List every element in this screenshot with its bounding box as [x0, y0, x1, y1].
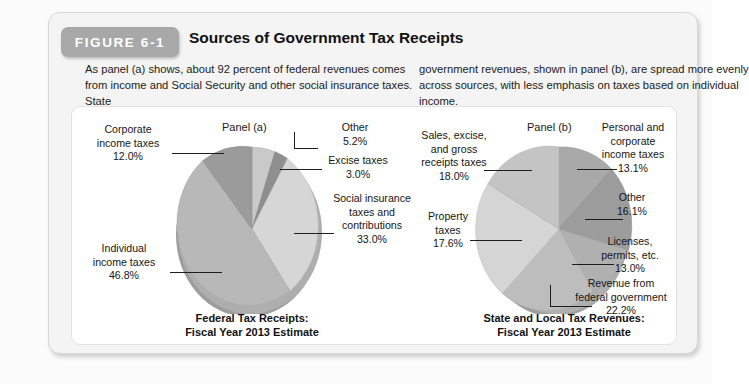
figure-card: FIGURE 6-1 Sources of Government Tax Rec…	[48, 12, 698, 354]
leader-individual	[170, 272, 222, 273]
label-individual-income-taxes: Individual income taxes 46.8%	[76, 242, 172, 283]
label-licenses-l1: Licenses,	[584, 235, 676, 249]
label-licenses-permits: Licenses, permits, etc. 13.0%	[584, 235, 676, 276]
label-excise-pct: 3.0%	[312, 168, 404, 182]
leader-corporate	[172, 153, 224, 154]
label-corporate-income-taxes: Corporate income taxes 12.0%	[82, 123, 174, 164]
label-excise-l1: Excise taxes	[312, 154, 404, 168]
caption-b-line1: State and Local Tax Revenues:	[450, 311, 678, 325]
leader-other-v	[294, 132, 295, 149]
label-individual-pct: 46.8%	[76, 269, 172, 283]
figure-title: Sources of Government Tax Receipts	[189, 29, 464, 47]
label-sales-l3: receipts taxes	[402, 156, 506, 170]
label-property-taxes: Property taxes 17.6%	[404, 210, 492, 251]
label-federal-l1: Revenue from	[562, 277, 680, 291]
label-corporate-pct: 12.0%	[82, 150, 174, 164]
leader-licenses	[572, 264, 614, 265]
label-other-state-pct: 16.1%	[592, 205, 672, 219]
leader-excise	[280, 169, 322, 170]
label-other-federal: Other 5.2%	[317, 121, 393, 148]
label-other-state: Other 16.1%	[592, 191, 672, 218]
label-corporate-l1: Corporate	[82, 123, 174, 137]
label-other-pct: 5.2%	[317, 135, 393, 149]
label-sales-excise-gross: Sales, excise, and gross receipts taxes …	[402, 129, 506, 183]
label-personal-l1: Personal and	[584, 121, 682, 135]
label-corporate-l2: income taxes	[82, 137, 174, 151]
leader-federal-h	[550, 306, 592, 307]
label-other-state-l1: Other	[592, 191, 672, 205]
label-licenses-l2: permits, etc.	[584, 249, 676, 263]
leader-other-state	[585, 219, 623, 220]
leader-personal	[577, 169, 617, 170]
label-sales-l1: Sales, excise,	[402, 129, 506, 143]
caption-panel-a: Federal Tax Receipts: Fiscal Year 2013 E…	[142, 311, 362, 340]
leader-property	[470, 240, 522, 241]
caption-a-line1: Federal Tax Receipts:	[142, 311, 362, 325]
caption-a-line2: Fiscal Year 2013 Estimate	[142, 325, 362, 339]
charts-panel: Panel (a)	[71, 106, 677, 345]
figure-number-text: FIGURE 6-1	[75, 35, 165, 50]
caption-panel-b: State and Local Tax Revenues: Fiscal Yea…	[450, 311, 678, 340]
label-individual-l2: income taxes	[76, 256, 172, 270]
caption-b-line2: Fiscal Year 2013 Estimate	[450, 325, 678, 339]
leader-other-h	[294, 148, 318, 149]
label-sales-l2: and gross	[402, 143, 506, 157]
leader-federal-v	[550, 285, 551, 307]
leader-sales	[484, 170, 532, 171]
label-other-l1: Other	[317, 121, 393, 135]
leader-social	[294, 233, 334, 234]
label-personal-corporate-income: Personal and corporate income taxes 13.1…	[584, 121, 682, 175]
label-federal-l2: federal government	[562, 291, 680, 305]
label-property-l2: taxes	[404, 224, 492, 238]
label-individual-l1: Individual	[76, 242, 172, 256]
pie-federal-slices	[177, 146, 318, 305]
figure-number-badge: FIGURE 6-1	[61, 27, 179, 57]
label-personal-l2: corporate	[584, 135, 682, 149]
label-personal-l3: income taxes	[584, 148, 682, 162]
label-property-l1: Property	[404, 210, 492, 224]
label-excise-taxes: Excise taxes 3.0%	[312, 154, 404, 181]
label-social-l1: Social insurance	[322, 192, 422, 206]
intro-paragraph-left: As panel (a) shows, about 92 percent of …	[85, 62, 415, 110]
intro-paragraph-right-text: government revenues, shown in panel (b),…	[419, 62, 749, 110]
label-sales-pct: 18.0%	[402, 170, 506, 184]
